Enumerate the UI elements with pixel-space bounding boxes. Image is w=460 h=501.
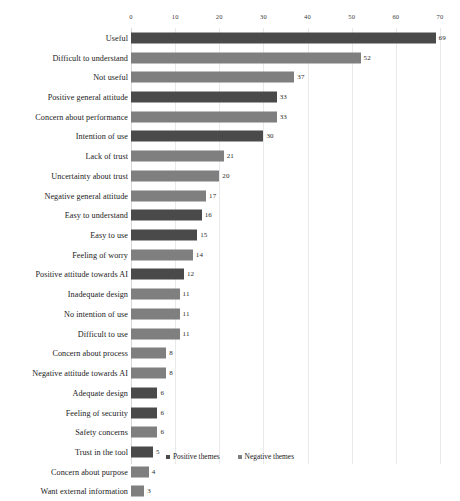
bar-negative — [131, 289, 180, 300]
x-tick-label: 10 — [172, 13, 179, 20]
bar-value-label: 52 — [364, 54, 371, 62]
bar-negative — [131, 308, 180, 319]
bar-positive — [131, 210, 202, 221]
category-label: Positive attitude towards AI — [0, 270, 128, 279]
x-axis-tick-labels: 010203040506070 — [131, 13, 440, 25]
chart-row: Feeling of security6 — [0, 403, 460, 423]
bar-negative — [131, 111, 277, 122]
chart-row: Positive general attitude33 — [0, 87, 460, 107]
category-label: Uncertainty about trust — [0, 171, 128, 180]
bar-negative — [131, 486, 144, 497]
category-label: Negative general attitude — [0, 191, 128, 200]
chart-row: Adequate design6 — [0, 383, 460, 403]
chart-row: Concern about process8 — [0, 344, 460, 364]
bar-positive — [131, 32, 436, 43]
chart-row: Lack of trust21 — [0, 146, 460, 166]
bar-value-label: 21 — [227, 152, 234, 160]
chart-row: Useful69 — [0, 28, 460, 48]
bar-positive — [131, 230, 197, 241]
bar-value-label: 8 — [169, 369, 173, 377]
category-label: Negative attitude towards AI — [0, 369, 128, 378]
x-tick-label: 20 — [216, 13, 223, 20]
chart-row: Uncertainty about trust20 — [0, 166, 460, 186]
category-label: Concern about purpose — [0, 467, 128, 476]
category-label: Want external information — [0, 487, 128, 496]
bar-value-label: 6 — [160, 409, 164, 417]
chart-row: Not useful37 — [0, 67, 460, 87]
bar-value-label: 15 — [200, 231, 207, 239]
bar-negative — [131, 427, 157, 438]
x-tick-label: 60 — [392, 13, 399, 20]
bar-value-label: 3 — [147, 487, 151, 495]
bar-rows: Useful69Difficult to understand52Not use… — [0, 28, 460, 501]
bar-value-label: 33 — [280, 113, 287, 121]
bar-positive — [131, 407, 157, 418]
category-label: Not useful — [0, 73, 128, 82]
bar-positive — [131, 131, 263, 142]
bar-value-label: 11 — [183, 310, 190, 318]
bar-value-label: 37 — [297, 73, 304, 81]
legend-label: Negative themes — [245, 452, 294, 461]
bar-positive — [131, 269, 184, 280]
category-label: Concern about process — [0, 349, 128, 358]
category-label: Adequate design — [0, 388, 128, 397]
chart-row: Want external information3 — [0, 482, 460, 501]
bar-negative — [131, 466, 149, 477]
bar-value-label: 6 — [160, 428, 164, 436]
category-label: Easy to use — [0, 231, 128, 240]
bar-negative — [131, 348, 166, 359]
category-label: Safety concerns — [0, 428, 128, 437]
bar-value-label: 17 — [209, 192, 216, 200]
chart-row: Safety concerns6 — [0, 422, 460, 442]
x-tick-label: 30 — [260, 13, 267, 20]
category-label: Feeling of worry — [0, 250, 128, 259]
bar-value-label: 11 — [183, 330, 190, 338]
legend-swatch-icon — [166, 455, 170, 459]
bar-value-label: 4 — [152, 468, 156, 476]
category-label: Inadequate design — [0, 290, 128, 299]
bar-negative — [131, 151, 224, 162]
chart-row: Negative general attitude17 — [0, 186, 460, 206]
bar-value-label: 6 — [160, 389, 164, 397]
x-tick-label: 70 — [437, 13, 444, 20]
bar-negative — [131, 328, 180, 339]
category-label: Lack of trust — [0, 152, 128, 161]
bar-positive — [131, 92, 277, 103]
category-label: Useful — [0, 33, 128, 42]
chart-row: Difficult to use11 — [0, 324, 460, 344]
bar-negative — [131, 52, 361, 63]
bar-negative — [131, 72, 294, 83]
category-label: Concern about performance — [0, 112, 128, 121]
chart-row: Negative attitude towards AI8 — [0, 363, 460, 383]
bar-value-label: 20 — [222, 172, 229, 180]
chart-row: Inadequate design11 — [0, 284, 460, 304]
chart-row: No intention of use11 — [0, 304, 460, 324]
x-tick-label: 50 — [348, 13, 355, 20]
bar-value-label: 33 — [280, 93, 287, 101]
legend-item: Negative themes — [238, 452, 294, 461]
category-label: No intention of use — [0, 309, 128, 318]
legend-label: Positive themes — [173, 452, 220, 461]
bar-negative — [131, 170, 219, 181]
chart-row: Concern about performance33 — [0, 107, 460, 127]
category-label: Feeling of security — [0, 408, 128, 417]
x-tick-label: 0 — [129, 13, 132, 20]
category-label: Easy to understand — [0, 211, 128, 220]
category-label: Difficult to understand — [0, 53, 128, 62]
bar-value-label: 69 — [439, 34, 446, 42]
category-label: Positive general attitude — [0, 93, 128, 102]
bar-negative — [131, 190, 206, 201]
chart-row: Easy to understand16 — [0, 205, 460, 225]
legend-swatch-icon — [238, 455, 242, 459]
bar-negative — [131, 249, 193, 260]
category-label: Difficult to use — [0, 329, 128, 338]
chart-legend: Positive themesNegative themes — [0, 452, 460, 461]
bar-value-label: 8 — [169, 349, 173, 357]
chart-row: Concern about purpose4 — [0, 462, 460, 482]
bar-positive — [131, 387, 157, 398]
chart-row: Feeling of worry14 — [0, 245, 460, 265]
bar-value-label: 11 — [183, 290, 190, 298]
x-tick-label: 40 — [304, 13, 311, 20]
bar-value-label: 30 — [266, 132, 273, 140]
